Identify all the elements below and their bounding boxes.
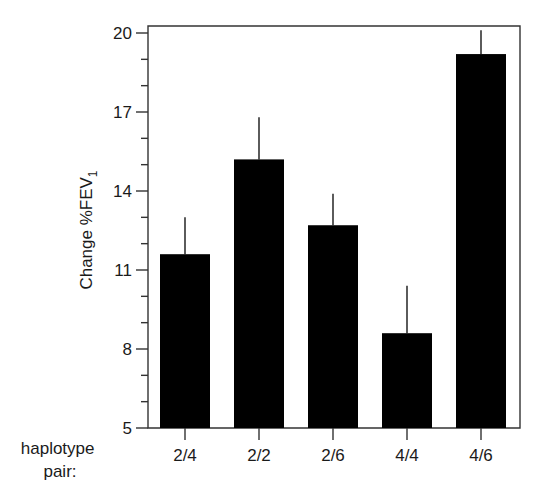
x-tick-label: 4/4: [395, 446, 419, 465]
x-tick-label: 2/6: [321, 446, 345, 465]
x-tick-label: 2/4: [173, 446, 197, 465]
bars: [160, 30, 506, 428]
y-tick-label: 17: [113, 103, 132, 122]
y-tick-label: 11: [114, 261, 132, 280]
x-axis-label-line1: haplotype: [21, 439, 95, 458]
x-axis-label-line2: pair:: [43, 462, 76, 481]
bar-chart: 5811141720 2/42/22/64/44/6 Change %FEV1 …: [0, 0, 539, 503]
y-axis: 5811141720: [113, 24, 148, 438]
y-axis-label-subscript: 1: [86, 170, 100, 177]
x-tick-label: 2/2: [247, 446, 271, 465]
y-tick-label: 20: [113, 24, 132, 43]
y-tick-label: 5: [123, 419, 132, 438]
x-axis: 2/42/22/64/44/6: [173, 428, 493, 465]
bar-4-6: [456, 54, 506, 428]
y-axis-label-main: Change %FEV: [77, 176, 96, 289]
bar-2-6: [308, 225, 358, 428]
x-tick-label: 4/6: [469, 446, 493, 465]
x-axis-label: haplotype pair:: [21, 439, 99, 481]
y-tick-label: 14: [113, 182, 132, 201]
y-axis-label: Change %FEV1: [77, 170, 100, 289]
bar-2-2: [234, 159, 284, 428]
bar-4-4: [382, 333, 432, 428]
y-tick-label: 8: [123, 340, 132, 359]
bar-2-4: [160, 254, 210, 428]
